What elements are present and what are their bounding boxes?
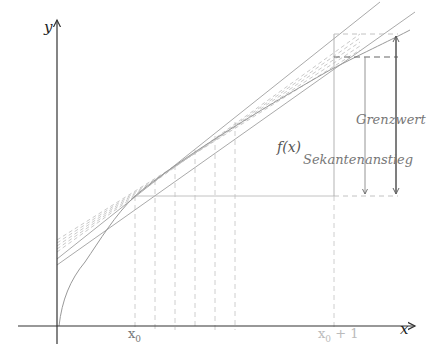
tick-x0-sub: 0	[135, 334, 141, 344]
diagram-canvas: y x x0 x0 + 1 f(x) Grenzwert Sekantenans…	[0, 0, 435, 361]
tick-x0-plus-1: x0 + 1	[318, 326, 359, 344]
secant-line	[57, 2, 380, 259]
y-axis-label: y	[44, 18, 52, 36]
curve-label: f(x)	[277, 139, 301, 155]
tangent-line	[57, 12, 415, 265]
tick-x0p1-suffix: + 1	[331, 326, 358, 341]
function-curve	[59, 30, 410, 326]
x-axis-label: x	[400, 320, 408, 338]
limit-label: Grenzwert	[356, 112, 426, 127]
tick-x0: x0	[128, 326, 141, 344]
secant-slope-label: Sekantenanstieg	[303, 152, 413, 167]
diagram-svg	[0, 0, 435, 361]
